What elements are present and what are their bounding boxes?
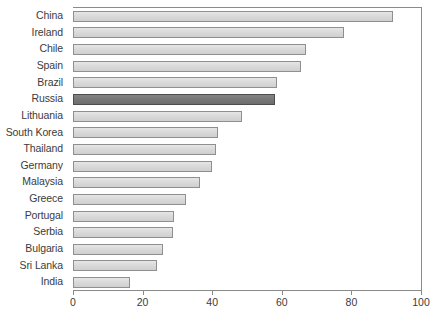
bar — [73, 260, 157, 271]
bar-row — [73, 191, 421, 208]
x-tick-label: 40 — [206, 297, 218, 308]
x-tick-label: 100 — [412, 297, 430, 308]
bar-row — [73, 91, 421, 108]
x-tick-mark — [421, 290, 422, 295]
bar-row — [73, 208, 421, 225]
bar — [73, 111, 242, 122]
bar — [73, 211, 174, 222]
bar — [73, 61, 301, 72]
x-tick-mark — [143, 290, 144, 295]
category-label: Russia — [0, 90, 68, 107]
bars-layer — [73, 8, 421, 291]
category-label: India — [0, 273, 68, 290]
bar — [73, 194, 186, 205]
x-tick-mark — [282, 290, 283, 295]
x-axis-tick-marks — [73, 290, 421, 296]
bar-row — [73, 141, 421, 158]
bar-row — [73, 174, 421, 191]
bar — [73, 44, 306, 55]
bar-row — [73, 274, 421, 291]
category-label: Bulgaria — [0, 240, 68, 257]
bar-row — [73, 158, 421, 175]
x-tick-mark — [351, 290, 352, 295]
bar-row — [73, 58, 421, 75]
bar-row — [73, 41, 421, 58]
bar — [73, 127, 218, 138]
category-label: Brazil — [0, 74, 68, 91]
x-tick-mark — [73, 290, 74, 295]
bar — [73, 177, 200, 188]
category-label: Portugal — [0, 207, 68, 224]
bar — [73, 227, 173, 238]
bar — [73, 11, 393, 22]
bar — [73, 27, 344, 38]
bar-chart: ChinaIrelandChileSpainBrazilRussiaLithua… — [0, 0, 434, 327]
x-tick-mark — [212, 290, 213, 295]
x-tick-label: 20 — [137, 297, 149, 308]
x-tick-label: 0 — [70, 297, 76, 308]
category-label: Greece — [0, 190, 68, 207]
category-label: Chile — [0, 40, 68, 57]
category-label: Sri Lanka — [0, 257, 68, 274]
bar-row — [73, 8, 421, 25]
bar — [73, 94, 275, 105]
category-label: Thailand — [0, 140, 68, 157]
bar-row — [73, 258, 421, 275]
x-axis-tick-labels: 020406080100 — [73, 297, 421, 313]
bar-row — [73, 25, 421, 42]
category-label: China — [0, 7, 68, 24]
bar-row — [73, 224, 421, 241]
bar — [73, 77, 277, 88]
x-tick-label: 60 — [276, 297, 288, 308]
bar-row — [73, 108, 421, 125]
plot-area — [73, 7, 422, 291]
category-label: Malaysia — [0, 173, 68, 190]
bar — [73, 144, 216, 155]
category-label: Germany — [0, 157, 68, 174]
category-label: Ireland — [0, 24, 68, 41]
category-label: Lithuania — [0, 107, 68, 124]
x-tick-label: 80 — [346, 297, 358, 308]
category-label: South Korea — [0, 123, 68, 140]
y-axis-category-labels: ChinaIrelandChileSpainBrazilRussiaLithua… — [0, 7, 68, 290]
bar — [73, 244, 163, 255]
bar-row — [73, 75, 421, 92]
bar — [73, 161, 212, 172]
category-label: Spain — [0, 57, 68, 74]
bar-row — [73, 124, 421, 141]
bar — [73, 277, 130, 288]
category-label: Serbia — [0, 223, 68, 240]
bar-row — [73, 241, 421, 258]
